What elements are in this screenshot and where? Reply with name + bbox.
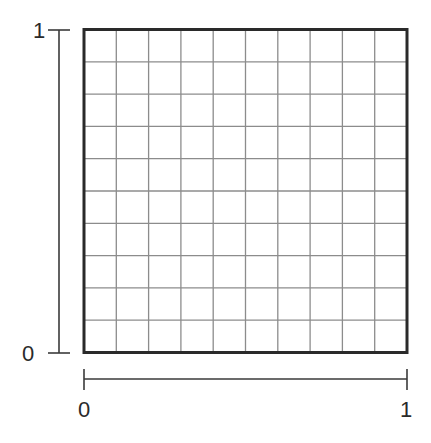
- unit-square-diagram: 1 0 0 1: [0, 0, 431, 443]
- x-axis-bracket: [84, 369, 407, 390]
- x-axis-min-label: 0: [78, 397, 90, 422]
- y-axis-max-label: 1: [33, 18, 45, 43]
- x-axis-max-label: 1: [400, 397, 412, 422]
- y-axis-min-label: 0: [22, 341, 34, 366]
- grid-lines: [84, 30, 407, 353]
- y-axis-bracket: [48, 30, 70, 353]
